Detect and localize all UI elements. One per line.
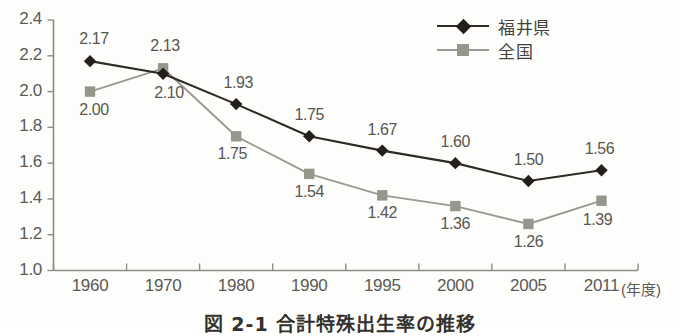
x-axis-unit-label: (年度) (621, 278, 661, 299)
data-point-label: 1.26 (514, 233, 544, 251)
data-point-label: 1.67 (368, 121, 398, 139)
data-point-label: 1.93 (223, 74, 253, 92)
data-point-label: 1.42 (368, 204, 398, 222)
data-point-label: 2.17 (79, 30, 109, 48)
y-axis-tick-label: 2.0 (0, 81, 42, 101)
chart-legend: 福井県 全国 (437, 14, 551, 62)
data-point-label: 1.50 (514, 151, 544, 169)
data-point-label: 1.54 (294, 183, 324, 201)
y-axis-tick-label: 1.6 (0, 152, 42, 172)
square-marker-icon (231, 131, 241, 141)
diamond-marker-icon (449, 157, 461, 169)
data-point-label: 2.13 (150, 37, 180, 55)
legend-symbol-fukui (437, 16, 489, 36)
square-marker-icon (457, 44, 469, 56)
legend-item-zenkoku: 全国 (437, 38, 551, 62)
square-marker-icon (377, 190, 387, 200)
square-marker-icon (304, 169, 314, 179)
figure-caption: 図 2-1 合計特殊出生率の推移 (0, 309, 680, 336)
x-axis-tick-label: 2005 (488, 276, 568, 296)
data-point-label: 2.00 (79, 101, 109, 119)
x-axis-tick-label: 1995 (342, 276, 422, 296)
diamond-marker-icon (595, 164, 607, 176)
y-axis-ticks (48, 20, 54, 271)
square-marker-icon (523, 219, 533, 229)
y-axis-tick-label: 2.2 (0, 45, 42, 65)
data-point-label: 1.56 (585, 140, 615, 158)
square-marker-icon (450, 201, 460, 211)
legend-label-zenkoku: 全国 (498, 38, 533, 63)
square-marker-icon (596, 196, 606, 206)
data-point-label: 1.75 (294, 106, 324, 124)
x-axis-tick-label: 1970 (123, 276, 203, 296)
legend-item-fukui: 福井県 (437, 14, 551, 38)
data-point-label: 1.39 (583, 211, 613, 229)
y-axis-tick-label: 1.4 (0, 188, 42, 208)
x-axis-ticks (54, 264, 639, 271)
y-axis-tick-label: 1.8 (0, 116, 42, 136)
legend-symbol-zenkoku (437, 40, 489, 60)
diamond-marker-icon (84, 55, 96, 67)
data-point-label: 1.60 (441, 133, 471, 151)
diamond-marker-icon (522, 175, 534, 187)
diamond-marker-icon (230, 98, 242, 110)
y-axis-tick-label: 2.4 (0, 9, 42, 29)
diamond-marker-icon (376, 144, 388, 156)
diamond-marker-icon (303, 130, 315, 142)
y-axis-tick-label: 1.2 (0, 224, 42, 244)
x-axis-tick-label: 2000 (415, 276, 495, 296)
square-marker-icon (85, 86, 95, 96)
x-axis-tick-label: 1980 (196, 276, 276, 296)
data-point-label: 1.75 (217, 145, 247, 163)
x-axis-tick-label: 1990 (269, 276, 349, 296)
x-axis-tick-label: 1960 (50, 276, 130, 296)
data-point-label: 1.36 (441, 215, 471, 233)
legend-label-fukui: 福井県 (498, 14, 551, 39)
data-point-label: 2.10 (154, 84, 184, 102)
diamond-marker-icon (456, 19, 472, 35)
y-axis-tick-label: 1.0 (0, 260, 42, 280)
